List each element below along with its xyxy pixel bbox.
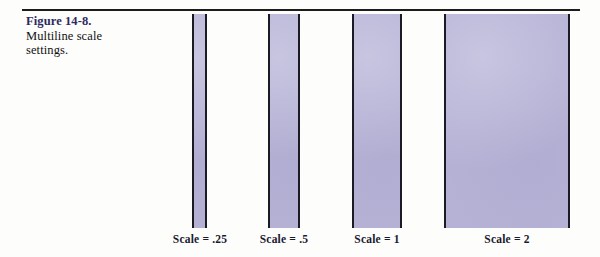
bar-scale-05 — [268, 14, 300, 228]
bar-label-scale-025: Scale = .25 — [160, 233, 240, 245]
bar-scale-1 — [352, 14, 402, 228]
bar-label-scale-1: Scale = 1 — [337, 233, 417, 245]
bar-label-scale-2: Scale = 2 — [467, 233, 547, 245]
bar-chart-plot-area: Scale = .25 Scale = .5 Scale = 1 Scale =… — [0, 0, 600, 257]
bar-label-scale-05: Scale = .5 — [244, 233, 324, 245]
figure-container: Figure 14-8. Multiline scale settings. S… — [0, 0, 600, 257]
bar-scale-025 — [192, 14, 207, 228]
bar-scale-2 — [444, 14, 570, 228]
